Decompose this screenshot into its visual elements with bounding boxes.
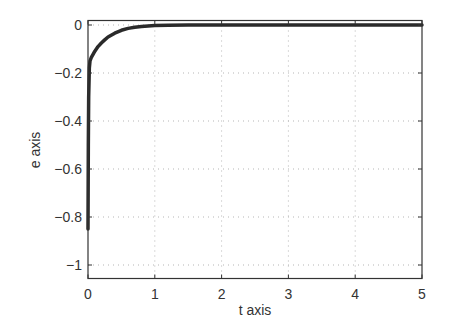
x-tick-label: 5 xyxy=(418,286,426,302)
y-tick-label: −0.6 xyxy=(54,161,82,177)
line-chart: 012345 0−0.2−0.4−0.6−0.8−1 t axis e axis xyxy=(0,0,449,330)
y-tick-label: 0 xyxy=(74,17,82,33)
y-tick-label: −0.2 xyxy=(54,65,82,81)
y-axis-label: e axis xyxy=(27,132,43,169)
y-axis-ticks: 0−0.2−0.4−0.6−0.8−1 xyxy=(54,17,422,273)
data-series-e xyxy=(88,25,422,229)
x-tick-label: 4 xyxy=(351,286,359,302)
x-axis-ticks: 012345 xyxy=(84,21,426,303)
y-tick-label: −0.8 xyxy=(54,209,82,225)
x-tick-label: 3 xyxy=(285,286,293,302)
x-axis-label: t axis xyxy=(239,302,272,318)
y-tick-label: −0.4 xyxy=(54,113,82,129)
x-tick-label: 0 xyxy=(84,286,92,302)
plot-frame xyxy=(88,21,422,279)
x-tick-label: 1 xyxy=(151,286,159,302)
y-tick-label: −1 xyxy=(66,257,82,273)
series-line xyxy=(88,25,422,229)
x-tick-label: 2 xyxy=(218,286,226,302)
grid-lines xyxy=(88,21,422,279)
